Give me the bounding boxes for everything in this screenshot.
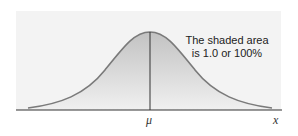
mu-label: μ: [146, 113, 152, 128]
annotation: The shaded area is 1.0 or 100%: [182, 34, 272, 60]
annotation-line-2: is 1.0 or 100%: [182, 47, 272, 60]
annotation-line-1: The shaded area: [182, 34, 272, 47]
x-axis-label: x: [273, 113, 278, 128]
